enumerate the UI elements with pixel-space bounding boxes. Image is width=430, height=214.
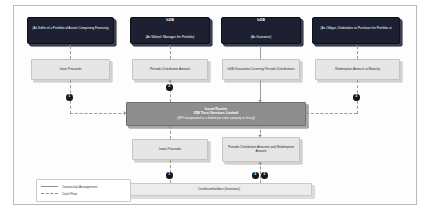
legend-solid-line-icon [41,186,58,188]
step-badge-6-redemption: 3 [261,172,268,179]
legend-cashflow-label: Cash Flow [62,192,77,196]
diagram-frame: IsDB (As Seller of a Portfolio of Assets… [13,5,417,205]
arrowhead-distribution-down [258,135,262,137]
arrowhead-seller-right [124,111,126,115]
connector-obligor-horizontal [306,113,357,114]
step-badge-1-left: 1 [66,94,73,101]
party-box-obligor: IsDB (As Obligor, Undertakes to Purchase… [312,17,400,44]
legend-dashed-line-icon [41,193,58,195]
arrowhead-distribution-up [258,162,262,164]
connector-issuer-to-issue-proceeds [170,126,171,139]
arrowhead-guarantor-down [258,100,262,102]
party-box-wakeel: IsDB (As Wakeel: Manages the Portfolio) [130,17,210,44]
step-badge-2-wakeel: 2 [166,84,173,91]
connector-seller-upper [70,46,71,59]
flow-isdb-guarantee-label: IsDB Guarantee Covering Periodic Distrib… [227,68,294,72]
connector-guarantor-to-issuer [260,80,261,102]
legend: Contractual Arrangement Cash Flow [36,179,131,202]
certificateholders-label: Certificateholders (Investors) [198,188,240,192]
connector-seller-horizontal [70,113,126,114]
step-badge-3-obligor: 3 [353,94,360,101]
party-box-seller: IsDB (As Seller of a Portfolio of Assets… [27,17,114,44]
flow-periodic-distribution-label: Periodic Distribution Amount [150,68,190,72]
party-box-guarantor: IsDB (As Guarantor) [221,17,301,44]
connector-obligor-upper [357,46,358,59]
certificateholders-box: Certificateholders (Investors) [126,183,312,196]
party-guarantor-role: (As Guarantor) [251,35,271,39]
party-wakeel-role: (As Wakeel: Manages the Portfolio) [146,35,195,39]
flow-issue-proceeds-bottom-label: Issue Proceeds [159,148,181,152]
issuer-trustee-box: Issuer/Trustee IDB Trust Services Limite… [126,102,306,126]
connector-guarantor-upper [260,46,261,59]
flow-issue-proceeds-top-label: Issue Proceeds [60,68,82,72]
step-badge-4-issue: 1 [166,172,173,179]
party-guarantor-name: IsDB [251,19,271,23]
flow-redemption-amount-label: Redemption Amount at Maturity [335,68,380,72]
arrowhead-obligor-left [305,111,307,115]
party-wakeel-name: IsDB [146,19,195,23]
flow-box-issue-proceeds-bottom: Issue Proceeds [132,139,208,160]
flow-box-periodic-and-redemption: Periodic Distribution Amounts and Redemp… [222,137,300,162]
party-seller-role: (As Seller of a Portfolio of Assets Comp… [33,26,109,44]
connector-wakeel-upper [170,46,171,59]
flow-box-issue-proceeds-top: Issue Proceeds [31,59,110,80]
step-badge-5-distribution: 2 [252,172,259,179]
flow-box-isdb-guarantee: IsDB Guarantee Covering Periodic Distrib… [222,59,300,80]
arrowhead-wakeel-issuer-up [168,80,172,82]
legend-item-contractual: Contractual Arrangement [41,183,126,190]
arrowhead-issue-proceeds-up [168,125,172,127]
issuer-note: (SPV incorporated as a limited par value… [177,117,255,120]
arrowhead-wakeel-up [168,45,172,47]
legend-item-cashflow: Cash Flow [41,190,126,197]
legend-contractual-label: Contractual Arrangement [62,185,97,189]
arrowhead-seller-up [68,45,72,47]
diagram-screenshot: IsDB (As Seller of a Portfolio of Assets… [0,0,430,214]
party-obligor-role: (As Obligor, Undertakes to Purchase the … [320,26,391,44]
flow-periodic-and-redemption-label: Periodic Distribution Amounts and Redemp… [226,146,296,153]
flow-box-redemption-amount: Redemption Amount at Maturity [315,59,400,80]
arrowhead-obligor-up [355,45,359,47]
flow-box-periodic-distribution: Periodic Distribution Amount [132,59,208,80]
